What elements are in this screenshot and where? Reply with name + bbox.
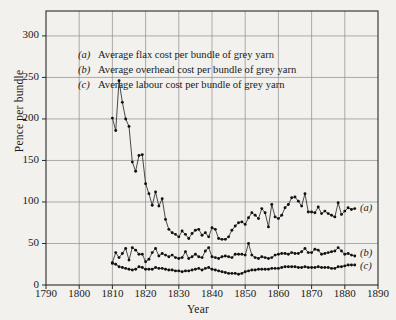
series-point <box>353 207 356 210</box>
series-line-0 <box>112 81 354 240</box>
series-point <box>111 117 114 120</box>
series-point <box>131 246 134 249</box>
series-point <box>244 223 247 226</box>
series-point <box>144 182 147 185</box>
series-point <box>304 247 307 250</box>
legend-key-c: (c) <box>78 77 98 92</box>
series-point <box>227 255 230 258</box>
series-point <box>290 251 293 254</box>
series-point <box>270 267 273 270</box>
series-point <box>234 253 237 256</box>
series-point <box>141 266 144 269</box>
series-point <box>230 256 233 259</box>
series-point <box>144 260 147 263</box>
series-point <box>250 211 253 214</box>
series-point <box>274 267 277 270</box>
y-tick-label: 50 <box>5 236 39 248</box>
series-point <box>274 254 277 257</box>
series-point <box>221 255 224 258</box>
series-point <box>310 251 313 254</box>
series-point <box>244 270 247 273</box>
series-point <box>151 268 154 271</box>
series-point <box>304 265 307 268</box>
series-point <box>307 251 310 254</box>
series-point <box>277 253 280 256</box>
series-point <box>287 203 290 206</box>
series-point <box>297 252 300 255</box>
series-point <box>194 229 197 232</box>
series-point <box>337 201 340 204</box>
end-label-c: (c) <box>360 260 372 271</box>
series-point <box>347 206 350 209</box>
series-point <box>207 246 210 249</box>
series-point <box>230 229 233 232</box>
series-point <box>250 254 253 257</box>
series-point <box>167 228 170 231</box>
series-point <box>337 246 340 249</box>
x-axis-title: Year <box>0 303 396 315</box>
series-point <box>147 258 150 261</box>
series-point <box>151 251 154 254</box>
series-point <box>330 267 333 270</box>
series-point <box>307 210 310 213</box>
series-point <box>280 214 283 217</box>
series-point <box>207 235 210 238</box>
series-point <box>204 250 207 253</box>
series-point <box>340 250 343 253</box>
series-point <box>138 253 141 256</box>
series-point <box>187 237 190 240</box>
series-point <box>191 255 194 258</box>
series-point <box>157 205 160 208</box>
series-point <box>181 270 184 273</box>
series-point <box>177 235 180 238</box>
series-point <box>217 257 220 260</box>
series-point <box>333 215 336 218</box>
x-tick-label: 1890 <box>358 287 396 299</box>
series-point <box>287 265 290 268</box>
series-point <box>134 249 137 252</box>
series-point <box>217 237 220 240</box>
series-point <box>187 269 190 272</box>
series-point <box>164 268 167 271</box>
series-point <box>171 231 174 234</box>
series-point <box>290 196 293 199</box>
series-point <box>247 269 250 272</box>
series-point <box>267 268 270 271</box>
series-point <box>317 206 320 209</box>
series-point <box>337 265 340 268</box>
series-point <box>237 253 240 256</box>
series-point <box>147 268 150 271</box>
series-point <box>264 268 267 271</box>
series-point <box>124 117 127 120</box>
series-point <box>131 269 134 272</box>
series-point <box>333 250 336 253</box>
series-point <box>310 266 313 269</box>
series-point <box>254 256 257 259</box>
series-point <box>138 154 141 157</box>
series-point <box>204 231 207 234</box>
series-point <box>174 233 177 236</box>
series-point <box>114 129 117 132</box>
series-point <box>184 233 187 236</box>
series-point <box>350 264 353 267</box>
series-point <box>317 265 320 268</box>
series-point <box>201 269 204 272</box>
series-point <box>327 251 330 254</box>
series-point <box>124 267 127 270</box>
series-point <box>161 252 164 255</box>
series-point <box>270 256 273 259</box>
series-point <box>340 265 343 268</box>
series-point <box>294 265 297 268</box>
series-point <box>157 254 160 257</box>
series-point <box>171 254 174 257</box>
series-point <box>327 266 330 269</box>
series-point <box>111 262 114 265</box>
series-point <box>201 256 204 259</box>
series-point <box>201 234 204 237</box>
series-point <box>247 216 250 219</box>
series-point <box>237 221 240 224</box>
series-point <box>128 125 131 128</box>
series-point <box>284 206 287 209</box>
series-point <box>330 250 333 253</box>
series-point <box>184 250 187 253</box>
